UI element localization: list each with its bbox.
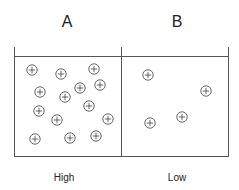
circled-plus-ion-icon [65, 133, 75, 143]
compartment-a-title: A [62, 13, 73, 31]
container [14, 47, 229, 157]
particles-group [27, 64, 211, 144]
circled-plus-ion-icon [103, 114, 113, 124]
circled-plus-ion-icon [27, 65, 37, 75]
circled-plus-ion-icon [60, 92, 70, 102]
circled-plus-ion-icon [143, 70, 153, 80]
diffusion-diagram [0, 0, 239, 190]
circled-plus-ion-icon [177, 112, 187, 122]
compartment-b-title: B [172, 13, 183, 31]
circled-plus-ion-icon [52, 115, 62, 125]
circled-plus-ion-icon [30, 134, 40, 144]
circled-plus-ion-icon [91, 131, 101, 141]
circled-plus-ion-icon [145, 118, 155, 128]
circled-plus-ion-icon [75, 83, 85, 93]
circled-plus-ion-icon [89, 64, 99, 74]
circled-plus-ion-icon [34, 106, 44, 116]
compartment-a-concentration-label: High [54, 172, 75, 183]
circled-plus-ion-icon [35, 87, 45, 97]
circled-plus-ion-icon [84, 101, 94, 111]
circled-plus-ion-icon [95, 80, 105, 90]
circled-plus-ion-icon [201, 86, 211, 96]
circled-plus-ion-icon [56, 69, 66, 79]
compartment-b-concentration-label: Low [168, 172, 186, 183]
